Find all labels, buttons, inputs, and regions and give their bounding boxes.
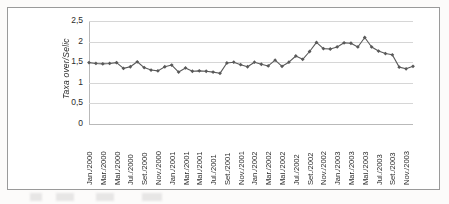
data-point-marker — [411, 64, 415, 68]
x-axis-tick-label: Mar./2002 — [264, 127, 273, 185]
x-axis-tick-label: Jul./2003 — [375, 127, 384, 185]
x-axis-tick-label: Nov./2001 — [237, 127, 246, 185]
x-axis-tick-label: Jan./2001 — [168, 127, 177, 185]
x-axis-tick-label: Jul./2001 — [209, 127, 218, 185]
x-axis-tick-label: Mar./2003 — [347, 127, 356, 185]
scan-artifact — [30, 193, 230, 201]
x-axis-tick-label: Jan./2002 — [250, 127, 259, 185]
data-point-marker — [404, 67, 408, 71]
data-point-marker — [149, 68, 153, 72]
x-axis-tick-label: Set./2003 — [388, 127, 397, 185]
x-axis-tick-label: Mai./2003 — [361, 127, 370, 185]
data-point-marker — [384, 52, 388, 56]
x-axis-tick-label: Set./2001 — [223, 127, 232, 185]
data-point-marker — [239, 63, 243, 67]
x-axis-tick-label: Jul./2002 — [292, 127, 301, 185]
data-point-marker — [101, 62, 105, 66]
data-point-marker — [204, 69, 208, 73]
chart-screenshot: Taxa over/Selic 2,521,510,50 Jan./2000Ma… — [0, 0, 449, 204]
data-point-marker — [87, 61, 91, 65]
x-axis-tick-label: Mai./2000 — [113, 127, 122, 185]
chart-frame: Taxa over/Selic 2,521,510,50 Jan./2000Ma… — [7, 7, 440, 190]
y-axis-tick-label: 2 — [49, 37, 83, 46]
data-point-marker — [211, 70, 215, 74]
y-axis-tick-label: 1,5 — [49, 57, 83, 66]
x-axis-labels: Jan./2000Mar./2000Mai./2000Jul./2000Set.… — [89, 127, 413, 189]
x-axis-tick-label: Jan./2000 — [85, 127, 94, 185]
data-point-marker — [232, 60, 236, 64]
x-axis-tick-label: Set./2000 — [140, 127, 149, 185]
series-markers — [87, 36, 415, 76]
y-axis-tick-label: 0 — [49, 119, 83, 128]
x-axis-tick-label: Mai./2001 — [195, 127, 204, 185]
x-axis-tick-label: Mar./2000 — [99, 127, 108, 185]
x-axis-tick-label: Nov./2003 — [402, 127, 411, 185]
data-series-line — [89, 21, 413, 124]
x-axis-tick-label: Nov./2002 — [319, 127, 328, 185]
x-axis-tick-label: Mai./2002 — [278, 127, 287, 185]
data-point-marker — [94, 62, 98, 66]
gridline — [89, 124, 413, 125]
x-axis-tick-label: Jan./2003 — [333, 127, 342, 185]
data-point-marker — [191, 69, 195, 73]
data-point-marker — [259, 62, 263, 66]
series-polyline — [89, 37, 413, 73]
data-point-marker — [197, 69, 201, 73]
x-axis-tick-label: Nov./2000 — [154, 127, 163, 185]
data-point-marker — [328, 47, 332, 51]
x-axis-tick-label: Mar./2001 — [182, 127, 191, 185]
y-axis-tick-label: 0,5 — [49, 98, 83, 107]
x-axis-tick-label: Set./2002 — [306, 127, 315, 185]
y-axis-tick-label: 2,5 — [49, 16, 83, 25]
y-axis-tick-label: 1 — [49, 78, 83, 87]
x-axis-tick-label: Jul./2000 — [126, 127, 135, 185]
data-point-marker — [108, 62, 112, 66]
